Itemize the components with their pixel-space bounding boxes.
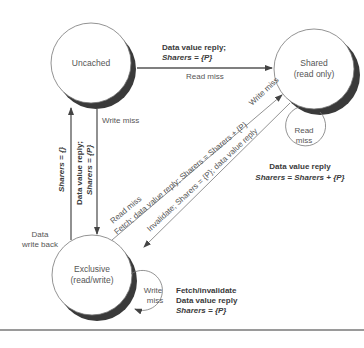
transition-shared-to-exclusive: Write miss Invalidate; Sharers = {P}; da… xyxy=(144,76,290,247)
label-action: Data value reply xyxy=(269,162,331,171)
label-action: Data value reply; xyxy=(162,43,226,52)
label-trigger: miss xyxy=(296,136,312,145)
label-action: Fetch/invalidate xyxy=(176,286,237,295)
label-trigger: miss xyxy=(147,296,163,305)
label-action: Sharers = {P} xyxy=(85,145,94,195)
label-action: Sharers = {P} xyxy=(162,53,212,62)
state-uncached-label: Uncached xyxy=(72,58,111,68)
state-exclusive-label: Exclusive xyxy=(74,264,110,274)
label-trigger: Read xyxy=(294,126,313,135)
label-trigger: Data xyxy=(32,230,49,239)
state-exclusive-sublabel: (read/write) xyxy=(71,275,114,285)
label-action: Invalidate; Sharers = {P}; data value re… xyxy=(145,126,259,233)
label-trigger: Write miss xyxy=(102,116,139,125)
label-trigger: Read miss xyxy=(186,72,224,81)
transition-exclusive-self: Write miss Fetch/invalidate Data value r… xyxy=(131,270,238,315)
label-trigger: Write miss xyxy=(247,76,280,108)
state-shared: Shared (read only) xyxy=(274,29,360,115)
label-trigger: Write xyxy=(144,286,163,295)
transition-shared-self: Read miss Data value reply Sharers = Sha… xyxy=(255,107,344,182)
label-trigger: write back xyxy=(21,240,59,249)
label-action: Sharers = {} xyxy=(57,147,66,192)
directory-state-diagram: Uncached Shared (read only) Exclusive (r… xyxy=(0,0,364,348)
label-action: Sharers = {P} xyxy=(176,306,226,315)
label-action: Sharers = Sharers + {P} xyxy=(255,173,344,182)
state-exclusive: Exclusive (read/write) xyxy=(52,235,137,321)
bottom-divider xyxy=(0,329,364,331)
transition-uncached-to-shared: Data value reply; Sharers = {P} Read mis… xyxy=(137,43,272,81)
state-uncached: Uncached xyxy=(51,23,136,109)
transition-exclusive-to-uncached: Sharers = {} Data write back xyxy=(21,108,71,249)
label-action: Data value reply xyxy=(176,296,238,305)
label-action: Fetch; data value reply; Sharers = Share… xyxy=(113,120,250,237)
state-shared-label: Shared xyxy=(300,58,328,68)
label-action: Data value reply; xyxy=(75,141,84,205)
state-shared-sublabel: (read only) xyxy=(294,69,335,79)
